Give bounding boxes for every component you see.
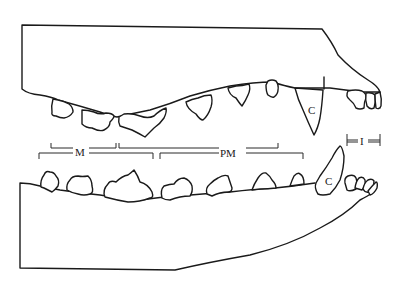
lower-molar-tooth	[104, 170, 153, 202]
upper-premolar-tooth	[266, 80, 278, 97]
dental-labels: M PM I	[39, 134, 380, 159]
lower-molar-tooth	[67, 176, 93, 195]
molar-label: M	[75, 146, 85, 158]
upper-incisor-tooth	[347, 90, 366, 109]
lower-canine-tooth	[315, 146, 344, 195]
lower-jaw: C	[20, 146, 377, 270]
jaw-dentition-diagram: C M PM I	[0, 0, 404, 288]
upper-premolar-tooth	[186, 95, 212, 120]
upper-premolar-bracket	[119, 143, 278, 148]
lower-premolar-tooth	[252, 173, 276, 190]
lower-canine-label: C	[325, 175, 332, 187]
lower-molar-bracket	[39, 153, 153, 159]
upper-molar-tooth	[82, 110, 114, 131]
upper-premolar-tooth	[228, 84, 250, 106]
upper-incisor-tooth	[375, 92, 381, 109]
incisor-label: I	[360, 135, 364, 147]
premolar-label: PM	[220, 147, 236, 159]
lower-premolar-tooth	[290, 173, 304, 186]
upper-incisor-tooth	[366, 93, 376, 109]
lower-jaw-outline	[20, 183, 372, 270]
upper-jaw: C	[22, 25, 381, 137]
upper-canine-label: C	[308, 104, 315, 116]
lower-premolar-tooth	[161, 178, 192, 200]
